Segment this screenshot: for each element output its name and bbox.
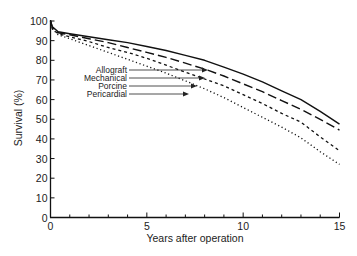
x-tick-label: 15	[334, 220, 346, 232]
y-tick-label: 50	[36, 113, 48, 125]
label-pericardial: Pericardial	[87, 89, 127, 99]
arrowhead-icon	[202, 68, 208, 73]
y-tick-label: 70	[36, 74, 48, 86]
y-tick-label: 60	[36, 94, 48, 106]
y-tick-label: 80	[36, 54, 48, 66]
arrowhead-icon	[191, 84, 197, 89]
x-axis-title: Years after operation	[146, 232, 243, 244]
y-tick-label: 100	[30, 15, 48, 27]
x-tick-label: 0	[48, 220, 54, 232]
arrowhead-icon	[183, 92, 189, 97]
x-tick-label: 10	[237, 220, 249, 232]
y-tick-label: 90	[36, 35, 48, 47]
y-tick-label: 20	[36, 172, 48, 184]
y-tick-label: 40	[36, 133, 48, 145]
arrowhead-icon	[199, 76, 205, 81]
y-tick-label: 30	[36, 153, 48, 165]
x-tick-label: 5	[144, 220, 150, 232]
x-axis-ticks: 051015	[48, 213, 346, 232]
y-axis-title: Survival (%)	[12, 90, 24, 147]
y-tick-label: 10	[36, 192, 48, 204]
survival-chart: 0102030405060708090100 051015 AllograftM…	[0, 0, 357, 256]
